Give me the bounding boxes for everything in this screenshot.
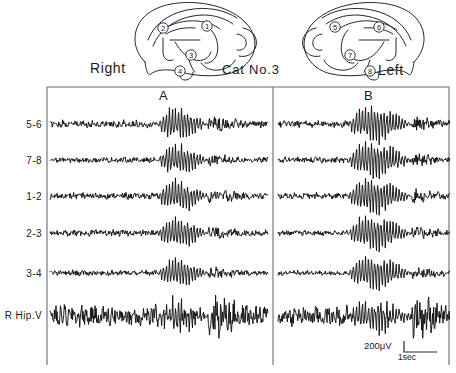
eeg-figure: 1 2 3 4 5 6 7 8	[0, 0, 456, 373]
eeg-traces-canvas	[0, 0, 456, 373]
eeg-trace-7-8-panel-a	[50, 144, 268, 173]
eeg-trace-5-6-panel-b	[278, 106, 450, 145]
scale-bar	[404, 341, 437, 352]
eeg-trace-r-hip-v-panel-a	[50, 295, 268, 338]
trace-group	[50, 106, 450, 339]
eeg-trace-1-2-panel-b	[278, 178, 450, 215]
scale-amplitude-label: 200μV	[364, 340, 392, 351]
eeg-trace-3-4-panel-a	[50, 258, 268, 286]
eeg-trace-3-4-panel-b	[278, 256, 450, 291]
eeg-trace-1-2-panel-a	[50, 178, 268, 211]
eeg-trace-2-3-panel-a	[50, 217, 268, 247]
eeg-trace-7-8-panel-b	[278, 141, 450, 179]
scale-time-label: 1sec	[398, 352, 416, 362]
eeg-trace-2-3-panel-b	[278, 216, 450, 252]
eeg-trace-5-6-panel-a	[50, 108, 268, 138]
eeg-trace-r-hip-v-panel-b	[278, 297, 450, 338]
